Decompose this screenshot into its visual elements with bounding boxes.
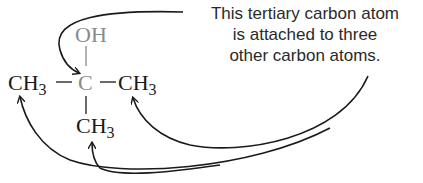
caption-line-2: is attached to three [187,24,423,45]
methyl-bottom: CH3 [76,115,115,141]
arrow-to-right-methyl [133,76,368,148]
caption-line-1: This tertiary carbon atom [187,3,423,24]
central-carbon: C [78,72,93,94]
arrow-to-left-methyl [20,97,330,169]
methyl-right: CH3 [118,72,157,98]
caption-line-3: other carbon atoms. [187,45,423,66]
hydroxyl-group: OH [75,24,107,46]
caption: This tertiary carbon atom is attached to… [187,3,423,66]
methyl-left: CH3 [8,72,47,98]
